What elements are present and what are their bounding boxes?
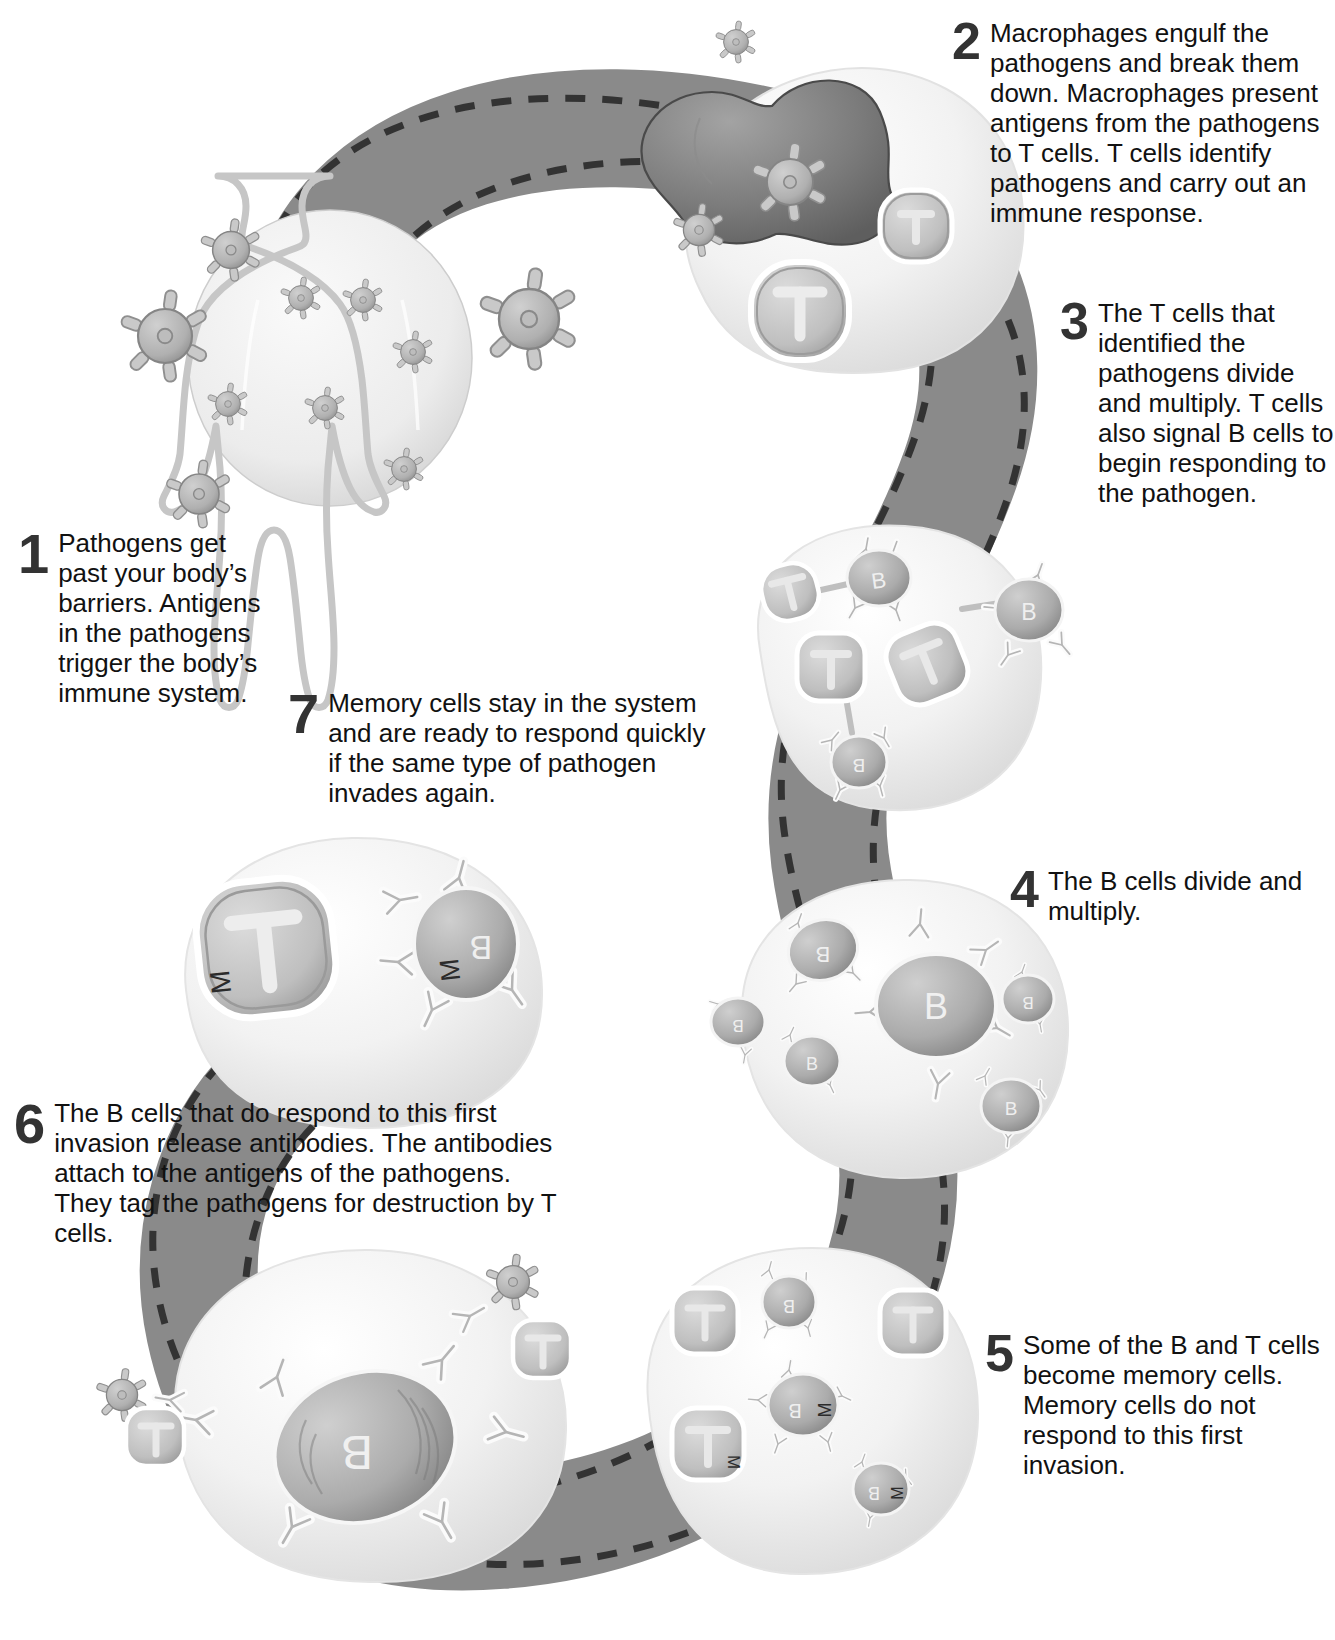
step-5-number: 5 xyxy=(985,1330,1013,1378)
svg-text:B: B xyxy=(788,1400,801,1422)
svg-text:M: M xyxy=(815,1403,835,1418)
t-cell-step2-a xyxy=(880,190,952,262)
step-2-caption: 2 Macrophages engulf the pathogens and b… xyxy=(952,18,1335,228)
svg-text:B: B xyxy=(341,1426,373,1479)
step-7-number: 7 xyxy=(288,688,318,740)
step-5-illustration: M B B M xyxy=(647,1248,978,1574)
step-3-number: 3 xyxy=(1060,298,1088,346)
step-4-text: The B cells divide and multiply. xyxy=(1048,866,1335,926)
svg-text:B: B xyxy=(783,1296,795,1316)
step-5-text: Some of the B and T cells become memory … xyxy=(1023,1330,1335,1480)
step-1-number: 1 xyxy=(18,528,48,580)
step-3-text: The T cells that identified the pathogen… xyxy=(1098,298,1335,508)
svg-text:B: B xyxy=(1021,599,1036,625)
step-1-caption: 1 Pathogens get past your body’s barrier… xyxy=(18,528,280,708)
svg-text:B: B xyxy=(853,755,866,776)
step-5-caption: 5 Some of the B and T cells become memor… xyxy=(985,1330,1335,1480)
svg-text:B: B xyxy=(1005,1098,1018,1119)
svg-text:B: B xyxy=(1022,993,1033,1012)
step-3-caption: 3 The T cells that identified the pathog… xyxy=(1060,298,1335,508)
step-1-text: Pathogens get past your body’s barriers.… xyxy=(58,528,280,708)
diagram-canvas: B B B xyxy=(0,0,1335,1640)
t-cell-step6-a xyxy=(513,1320,571,1378)
step-2-text: Macrophages engulf the pathogens and bre… xyxy=(990,18,1335,228)
t-cell-step2-b xyxy=(751,262,849,360)
step-7-text: Memory cells stay in the system and are … xyxy=(328,688,708,808)
step-2-number: 2 xyxy=(952,18,980,66)
step-6-caption: 6 The B cells that do respond to this fi… xyxy=(14,1098,574,1248)
svg-text:M: M xyxy=(434,957,466,983)
step-6-text: The B cells that do respond to this firs… xyxy=(54,1098,574,1248)
svg-text:M: M xyxy=(889,1486,906,1499)
t-cell-step3-b xyxy=(797,633,865,701)
step-4-number: 4 xyxy=(1010,866,1038,914)
t-memory-cell-step7: M xyxy=(191,873,340,1022)
svg-text:B: B xyxy=(732,1016,743,1035)
svg-text:B: B xyxy=(470,929,493,967)
step-4-caption: 4 The B cells divide and multiply. xyxy=(1010,866,1335,926)
svg-text:B: B xyxy=(806,1054,818,1074)
t-memory-cell-step5: M xyxy=(672,1408,744,1480)
step-7-illustration: M B M xyxy=(185,838,542,1128)
svg-text:M: M xyxy=(204,969,237,995)
step-6-number: 6 xyxy=(14,1098,44,1150)
svg-text:B: B xyxy=(868,1483,880,1503)
svg-text:M: M xyxy=(724,1455,743,1469)
step-7-caption: 7 Memory cells stay in the system and ar… xyxy=(288,688,708,808)
t-cell-step5-a xyxy=(672,1288,738,1354)
svg-text:B: B xyxy=(816,942,831,967)
t-cell-step6-b xyxy=(126,1408,184,1466)
step-3-illustration: B B B xyxy=(756,525,1075,810)
t-cell-step5-b xyxy=(880,1290,946,1356)
svg-text:B: B xyxy=(924,986,948,1027)
